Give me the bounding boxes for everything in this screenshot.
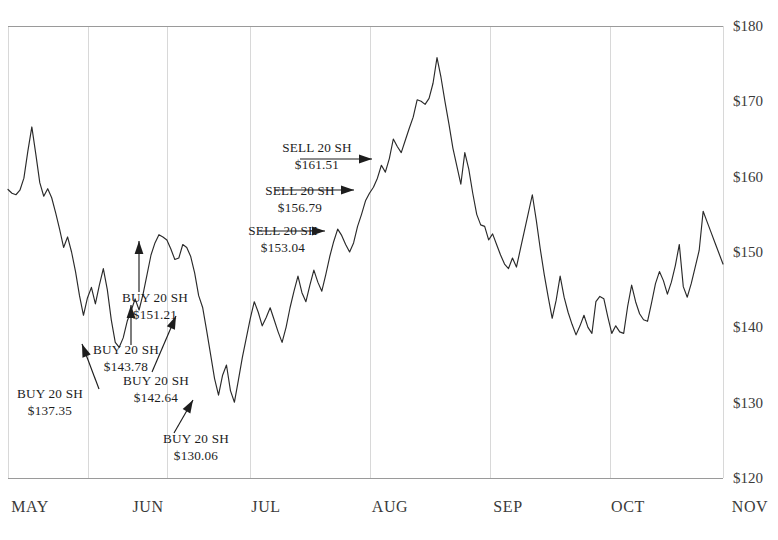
y-tick-label-130: $130	[733, 395, 763, 411]
annotation-price-label: $156.79	[278, 200, 322, 215]
annotation-price-label: $130.06	[174, 448, 218, 463]
y-tick-label-170: $170	[733, 93, 763, 109]
chart-background	[0, 0, 778, 540]
annotation-action-label: BUY 20 SH	[93, 342, 159, 357]
y-tick-label-160: $160	[733, 169, 763, 185]
stock-chart-figure: BUY 20 SH$137.35BUY 20 SH$143.78BUY 20 S…	[0, 0, 778, 540]
chart-canvas: BUY 20 SH$137.35BUY 20 SH$143.78BUY 20 S…	[0, 0, 778, 540]
annotation-price-label: $151.21	[133, 307, 177, 322]
x-tick-label-aug: AUG	[372, 498, 408, 515]
x-tick-label-oct: OCT	[611, 498, 645, 515]
annotation-price-label: $143.78	[104, 359, 148, 374]
annotation-price-label: $137.35	[28, 403, 72, 418]
annotation-action-label: BUY 20 SH	[17, 386, 83, 401]
x-tick-label-may: MAY	[11, 498, 49, 515]
annotation-price-label: $142.64	[134, 390, 178, 405]
annotation-action-label: BUY 20 SH	[122, 290, 188, 305]
y-tick-label-150: $150	[733, 244, 763, 260]
annotation-action-label: SELL 20 SH	[282, 140, 352, 155]
x-tick-label-jun: JUN	[132, 498, 163, 515]
annotation-action-label: BUY 20 SH	[163, 431, 229, 446]
y-tick-label-180: $180	[733, 18, 763, 34]
annotation-price-label: $153.04	[261, 240, 305, 255]
x-tick-label-sep: SEP	[493, 498, 522, 515]
y-tick-label-120: $120	[733, 470, 763, 486]
y-tick-label-140: $140	[733, 319, 763, 335]
x-tick-label-jul: JUL	[251, 498, 280, 515]
annotation-action-label: BUY 20 SH	[123, 373, 189, 388]
x-tick-label-nov: NOV	[732, 498, 768, 515]
